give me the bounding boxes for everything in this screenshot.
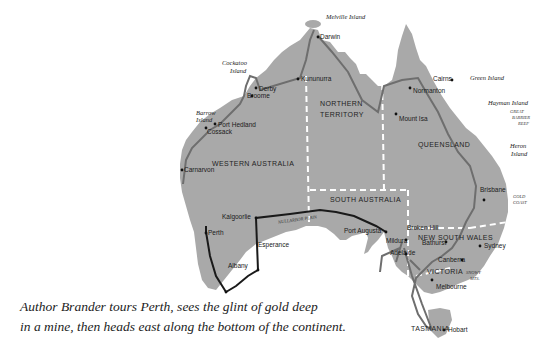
island-label-cockatoo-2: Island bbox=[230, 68, 246, 75]
city-label-port-augusta: Port Augusta bbox=[344, 228, 381, 235]
feature-label-gold-coast: GOLD bbox=[513, 195, 525, 200]
region-label-sa: SOUTH AUSTRALIA bbox=[330, 196, 401, 203]
city-label-esperance: Esperance bbox=[258, 242, 289, 249]
region-label-nt-2: TERRITORY bbox=[320, 111, 364, 118]
city-label-kalgoorlie: Kalgoorlie bbox=[222, 214, 251, 221]
city-label-broken-hill: Broken Hill bbox=[407, 225, 438, 232]
region-label-tas: TASMANIA bbox=[411, 325, 449, 332]
city-label-brisbane: Brisbane bbox=[480, 187, 506, 194]
region-label-qld: QUEENSLAND bbox=[418, 141, 470, 148]
city-label-melbourne: Melbourne bbox=[436, 284, 467, 291]
caption-line-2: in a mine, then heads east along the bot… bbox=[20, 317, 346, 337]
feature-label-snowy: SNOWY bbox=[466, 271, 481, 276]
city-label-cossack: Cossack bbox=[207, 129, 232, 136]
island-label-hayman: Hayman Island bbox=[488, 100, 528, 107]
island-label-barrow-2: Island bbox=[196, 117, 212, 124]
tasmania-landmass bbox=[428, 308, 452, 338]
feature-label-gbr-2: BARRIER bbox=[512, 116, 530, 121]
city-label-kununurra: Kununurra bbox=[301, 76, 331, 83]
city-label-broome: Broome bbox=[247, 93, 270, 100]
city-label-hobart: Hobart bbox=[448, 327, 468, 334]
region-label-nt: NORTHERN bbox=[320, 100, 363, 107]
island-label-melville: Melville Island bbox=[326, 14, 365, 21]
city-label-perth: Perth bbox=[208, 230, 224, 237]
caption-line-1: Author Brander tours Perth, sees the gli… bbox=[20, 297, 346, 317]
island-label-heron: Heron bbox=[510, 143, 526, 150]
city-label-carnarvon: Carnarvon bbox=[184, 167, 214, 174]
city-label-darwin: Darwin bbox=[320, 34, 340, 41]
island-label-green: Green Island bbox=[470, 75, 504, 82]
city-label-bathurst: Bathurst bbox=[422, 240, 446, 247]
melville-island-landmass bbox=[305, 20, 321, 28]
city-label-albany: Albany bbox=[228, 263, 248, 270]
city-label-cairns: Cairns bbox=[433, 76, 452, 83]
feature-label-gold-coast-2: COAST bbox=[513, 201, 527, 206]
feature-label-gbr: GREAT bbox=[510, 110, 524, 115]
city-label-canberra: Canberra bbox=[438, 257, 465, 264]
city-label-sydney: Sydney bbox=[484, 243, 506, 250]
island-label-cockatoo: Cockatoo bbox=[222, 60, 247, 67]
island-label-heron-2: Island bbox=[511, 151, 527, 158]
city-label-mildura: Mildura bbox=[386, 238, 407, 245]
region-label-wa: WESTERN AUSTRALIA bbox=[212, 160, 294, 167]
feature-label-gbr-3: REEF bbox=[518, 122, 529, 127]
city-label-normanton: Normanton bbox=[413, 88, 445, 95]
feature-label-snowy-2: MTS. bbox=[470, 277, 480, 282]
map-caption: Author Brander tours Perth, sees the gli… bbox=[20, 297, 346, 337]
city-label-mount-isa: Mount Isa bbox=[399, 116, 428, 123]
city-label-adelaide: Adelaide bbox=[390, 250, 415, 257]
region-label-vic: VICTORIA bbox=[427, 268, 463, 275]
